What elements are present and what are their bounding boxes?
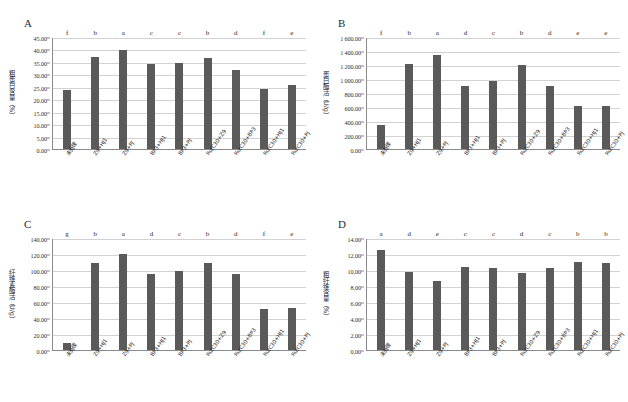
x-axis-tick-labels: 未处理Z9+HJ1Z9+PJBP3+HJ1BP3+PJRutC30+Z9RutC…: [52, 352, 306, 398]
y-axis-tick-label: 2.00: [351, 332, 361, 339]
bar-slot: c: [137, 38, 165, 149]
significance-letter: d: [234, 30, 238, 37]
y-axis-tick-mark: [47, 351, 50, 352]
y-axis-tick-label: 30.00: [34, 72, 47, 79]
bar: c: [489, 268, 497, 350]
significance-letter: e: [576, 30, 579, 37]
significance-letter: c: [548, 231, 551, 238]
significance-letter: f: [380, 30, 382, 37]
y-axis-tick-label: 200.00: [345, 133, 361, 140]
significance-letter: b: [206, 30, 210, 37]
x-label-slot: RutC30+HJ1: [564, 151, 592, 197]
y-axis-tick-label: 0.00: [37, 147, 47, 154]
x-label-slot: RutC30+BP3: [535, 151, 563, 197]
x-label-slot: RutC30+PJ: [592, 352, 620, 398]
x-label-slot: BP3+PJ: [165, 352, 193, 398]
y-axis-tick-label: 8.00: [351, 284, 361, 291]
significance-letter: b: [604, 231, 608, 238]
y-axis-tick-label: 0.00: [37, 348, 47, 355]
y-axis-tick-label: 800.00: [345, 91, 361, 98]
y-axis-tick-label: 10.00: [348, 268, 361, 275]
x-label-slot: Z9+PJ: [108, 151, 136, 197]
significance-letter: b: [520, 30, 524, 37]
x-label-slot: BP3+HJ1: [137, 151, 165, 197]
significance-letter: c: [178, 30, 181, 37]
y-axis-tick-mark: [47, 112, 50, 113]
significance-letter: a: [122, 231, 125, 238]
y-axis-tick-mark: [47, 287, 50, 288]
panel-letter-a: A: [24, 18, 32, 29]
bar: c: [175, 271, 183, 350]
y-axis-tick-label: 400.00: [345, 119, 361, 126]
y-axis-tick-mark: [361, 122, 364, 123]
x-axis-tick-labels: 未处理Z9+HJ1Z9+PJBP3+HJ1BP3+PJRutC30+Z9RutC…: [52, 151, 306, 197]
x-label-slot: BP3+HJ1: [451, 151, 479, 197]
x-label-slot: RutC30+BP3: [221, 151, 249, 197]
significance-letter: d: [464, 30, 468, 37]
bar-series: gbadcbdfe: [53, 239, 306, 350]
y-axis-tick-label: 45.00: [34, 35, 47, 42]
x-axis-tick-labels: 未处理Z9+HJ1Z9+PJBP3+HJ1BP3+PJRutC30+Z9RutC…: [366, 151, 620, 197]
x-label-slot: RutC30+PJ: [278, 352, 306, 398]
y-axis-tick-label: 4.00: [351, 316, 361, 323]
y-axis-tick-mark: [47, 87, 50, 88]
panel-d: D粗纤维含量（%）0.002.004.006.008.0010.0012.001…: [314, 201, 628, 402]
y-axis-tick-mark: [361, 303, 364, 304]
bar-series: adeccdcbb: [367, 239, 620, 350]
bar-slot: d: [508, 239, 536, 350]
y-axis-tick-label: 10.00: [34, 122, 47, 129]
x-label-slot: RutC30+Z9: [193, 151, 221, 197]
significance-letter: a: [379, 231, 382, 238]
x-label-slot: BP3+HJ1: [137, 352, 165, 398]
bar-slot: a: [423, 38, 451, 149]
y-axis-tick-mark: [361, 271, 364, 272]
y-axis-tick-mark: [361, 80, 364, 81]
y-axis-tick-label: 140.00: [31, 236, 47, 243]
y-axis-tick-label: 0.00: [351, 147, 361, 154]
y-axis-tick-labels: 0.0020.0040.0060.0080.00100.00120.00140.…: [0, 239, 50, 351]
bar-slot: b: [194, 38, 222, 149]
bar: c: [489, 81, 497, 149]
bar-slot: b: [395, 38, 423, 149]
significance-letter: f: [66, 30, 68, 37]
bar: b: [405, 64, 413, 149]
significance-letter: d: [150, 231, 154, 238]
x-label-slot: Z9+HJ1: [394, 151, 422, 197]
y-axis-tick-mark: [361, 239, 364, 240]
bar: d: [147, 274, 155, 350]
bar: d: [232, 70, 240, 149]
significance-letter: c: [150, 30, 153, 37]
significance-letter: d: [520, 231, 524, 238]
y-axis-tick-label: 5.00: [37, 134, 47, 141]
bar: d: [405, 272, 413, 350]
y-axis-tick-label: 6.00: [351, 300, 361, 307]
bar: a: [433, 55, 441, 149]
x-label-slot: RutC30+Z9: [507, 151, 535, 197]
y-axis-tick-mark: [47, 38, 50, 39]
significance-letter: d: [548, 30, 552, 37]
y-axis-tick-mark: [47, 319, 50, 320]
plot-area: fbadcbdee: [366, 38, 620, 150]
bar: f: [260, 309, 268, 350]
y-axis-tick-label: 1 600.00: [340, 35, 361, 42]
significance-letter: c: [492, 231, 495, 238]
bar: e: [288, 85, 296, 149]
bar-slot: g: [53, 239, 81, 350]
significance-letter: c: [178, 231, 181, 238]
panel-letter-d: D: [338, 219, 346, 230]
bar-slot: c: [479, 239, 507, 350]
x-axis-tick-labels: 未处理Z9+HJ1Z9+PJBP3+HJ1BP3+PJRutC30+Z9RutC…: [366, 352, 620, 398]
x-label-slot: 未处理: [366, 352, 394, 398]
bar: c: [546, 268, 554, 350]
y-axis-tick-mark: [361, 52, 364, 53]
y-axis-tick-mark: [47, 271, 50, 272]
y-axis-tick-mark: [361, 255, 364, 256]
bar-slot: c: [165, 239, 193, 350]
bar-slot: f: [53, 38, 81, 149]
y-axis-tick-mark: [47, 150, 50, 151]
y-axis-tick-mark: [361, 136, 364, 137]
significance-letter: b: [93, 231, 97, 238]
x-label-slot: RutC30+PJ: [278, 151, 306, 197]
panel-letter-c: C: [24, 219, 31, 230]
bar: b: [602, 263, 610, 350]
